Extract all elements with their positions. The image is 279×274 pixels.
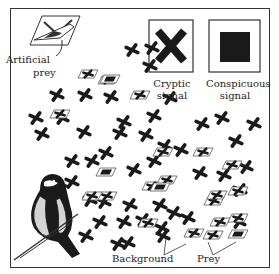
cryptic-prey-icon	[50, 110, 70, 118]
diagram-canvas	[0, 0, 279, 274]
cross-icon	[157, 231, 169, 241]
cryptic-prey-icon	[207, 191, 227, 199]
cross-icon	[168, 208, 180, 218]
cross-icon	[128, 165, 140, 175]
conspicuous-prey-icon	[100, 75, 120, 83]
conspicuous-prey-icon	[150, 183, 170, 191]
cross-icon	[105, 92, 117, 102]
cross-icon	[175, 145, 187, 155]
cross-icon	[79, 90, 91, 100]
cross-icon	[78, 127, 90, 137]
conspicuous-label-line1: Conspicuous	[206, 78, 264, 89]
cross-icon	[194, 168, 206, 178]
cryptic-label-line1: Cryptic	[153, 78, 191, 89]
cross-icon	[126, 45, 138, 55]
cross-icon	[118, 117, 130, 127]
cross-icon	[100, 148, 112, 158]
cross-icon	[94, 217, 106, 227]
cryptic-prey-icon	[138, 219, 158, 227]
background-label: Background	[112, 253, 173, 264]
square-icon	[220, 32, 250, 62]
cross-icon	[182, 213, 194, 223]
cross-icon	[124, 200, 136, 210]
cryptic-prey-icon	[203, 231, 223, 239]
cryptic-prey-icon	[78, 70, 98, 78]
cryptic-prey-icon	[210, 218, 230, 226]
cryptic-prey-icon	[228, 214, 248, 222]
cross-icon	[118, 217, 130, 227]
cross-icon	[140, 130, 152, 140]
artificial-prey-illustration	[30, 16, 80, 56]
cross-icon	[66, 156, 78, 166]
cross-icon	[51, 90, 63, 100]
cross-icon	[114, 128, 126, 138]
cross-icon	[36, 129, 48, 139]
cryptic-prey-icon	[82, 192, 102, 200]
cryptic-prey-icon	[130, 91, 150, 99]
cross-icon	[240, 162, 252, 172]
cross-icon	[112, 239, 124, 249]
artificial-prey-label-line1: Artificial	[6, 54, 50, 65]
cryptic-prey-icon	[222, 161, 242, 169]
artificial-prey-label-line2: prey	[33, 67, 56, 78]
cryptic-label-line2: signal	[153, 90, 191, 101]
cryptic-prey-icon	[228, 187, 248, 195]
cryptic-prey-icon	[184, 229, 204, 237]
cross-icon	[196, 119, 208, 129]
cross-icon	[86, 156, 98, 166]
cross-icon	[148, 111, 160, 121]
conspicuous-prey-icon	[96, 168, 116, 176]
conspicuous-label-line2: signal	[206, 90, 264, 101]
cross-icon	[154, 200, 166, 210]
conspicuous-signal-box	[209, 20, 260, 72]
cross-icon	[80, 231, 92, 241]
cross-icon	[248, 119, 260, 129]
cryptic-prey-icon	[193, 148, 213, 156]
cross-icon	[230, 136, 242, 146]
cross-icon	[30, 113, 42, 123]
cross-icon	[216, 113, 228, 123]
cross-icon	[148, 156, 160, 166]
cross-icon	[218, 170, 230, 180]
conspicuous-prey-icon	[228, 230, 248, 238]
prey-label: Prey	[197, 253, 220, 264]
cryptic-prey-icon	[153, 148, 173, 156]
